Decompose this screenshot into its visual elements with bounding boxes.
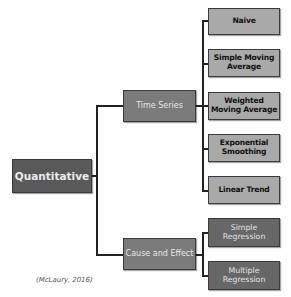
node-multiple-regression: Multiple Regression (208, 261, 280, 290)
connector-to-cause-effect (96, 254, 123, 256)
connector-root-vertical (96, 105, 98, 255)
citation: (McLaury, 2016) (36, 276, 93, 284)
node-weighted-moving-average: Weighted Moving Average (208, 92, 280, 120)
node-naive: Naive (208, 8, 280, 35)
node-time-series: Time Series (123, 90, 196, 122)
node-simple-regression: Simple Regression (208, 218, 280, 247)
node-exponential-smoothing: Exponential Smoothing (208, 134, 280, 162)
connector-cause-effect-vertical (202, 232, 204, 276)
node-cause-and-effect: Cause and Effect (123, 238, 196, 270)
node-simple-moving-average: Simple Moving Average (208, 49, 280, 77)
node-quantitative: Quantitative (12, 159, 92, 193)
connector-to-time-series (96, 105, 123, 107)
node-linear-trend: Linear Trend (208, 176, 280, 204)
